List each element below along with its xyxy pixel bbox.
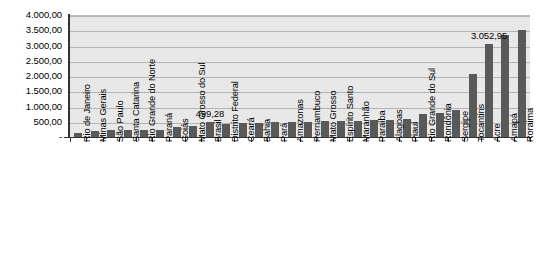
x-axis-label: Paraíba: [377, 110, 387, 142]
x-axis-label: Pernambuco: [312, 91, 322, 142]
x-axis-label: Santa Catarina: [131, 82, 141, 142]
y-axis-tick-label: 1.000,00: [26, 102, 62, 112]
x-axis-label: Rio de Janeiro: [82, 84, 92, 142]
x-axis-label: Mato Grosso do Sul: [197, 63, 207, 142]
x-axis-label: Rio Grande do Norte: [147, 59, 157, 142]
bar-chart: 4.000,003.500,003.000,002.500,002.000,00…: [0, 0, 536, 257]
x-axis-label: Espírito Santo: [345, 86, 355, 142]
x-axis-label: Roraima: [525, 108, 535, 142]
x-axis-label: Alagoas: [394, 109, 404, 142]
y-axis-tick-label: 2.500,00: [26, 56, 62, 66]
bar: [452, 110, 460, 137]
x-axis-label: Goiás: [180, 118, 190, 142]
x-axis-label: Mato Grosso: [328, 90, 338, 142]
x-axis-label: Bahia: [262, 119, 272, 142]
bar: [222, 124, 230, 137]
x-axis: Rio de JaneiroMinas GeraisSão PauloSanta…: [70, 142, 530, 254]
x-axis-label: Rio Grande do Sul: [427, 68, 437, 142]
y-axis-tick-label: 2.000,00: [26, 71, 62, 81]
y-axis-tick-label: 3.000,00: [26, 41, 62, 51]
y-axis-tick-label: 4.000,00: [26, 10, 62, 20]
data-label: 3.052,95: [471, 31, 507, 41]
bar: [189, 126, 197, 137]
data-label: 499,28: [196, 109, 224, 119]
x-axis-label: Amazonas: [295, 99, 305, 142]
x-axis-label: Minas Gerais: [98, 89, 108, 142]
x-axis-label: Amapá: [509, 113, 519, 142]
y-axis-tick-label: 3.500,00: [26, 25, 62, 35]
bar: [304, 122, 312, 137]
y-axis-tick-label: -: [59, 132, 62, 142]
y-axis-tick-label: 1.500,00: [26, 86, 62, 96]
bar: [419, 114, 427, 137]
x-axis-label: Tocantins: [476, 104, 486, 142]
x-axis-label: Acre: [492, 123, 502, 142]
y-axis: 4.000,003.500,003.000,002.500,002.000,00…: [0, 0, 68, 145]
x-axis-label: Ceará: [246, 117, 256, 142]
x-axis-label: São Paulo: [115, 100, 125, 142]
x-axis-label: Maranhão: [361, 101, 371, 142]
bar: [337, 121, 345, 137]
x-axis-label: Rondônia: [443, 103, 453, 142]
x-axis-label: Distrito Federal: [230, 81, 240, 142]
x-axis-label: Piauí: [410, 122, 420, 142]
x-axis-label: Brasil: [213, 120, 223, 142]
x-axis-label: Paraná: [164, 113, 174, 142]
x-axis-label: Sergipe: [460, 111, 470, 142]
x-axis-label: Pará: [279, 123, 289, 142]
y-axis-tick-label: 500,00: [34, 117, 62, 127]
